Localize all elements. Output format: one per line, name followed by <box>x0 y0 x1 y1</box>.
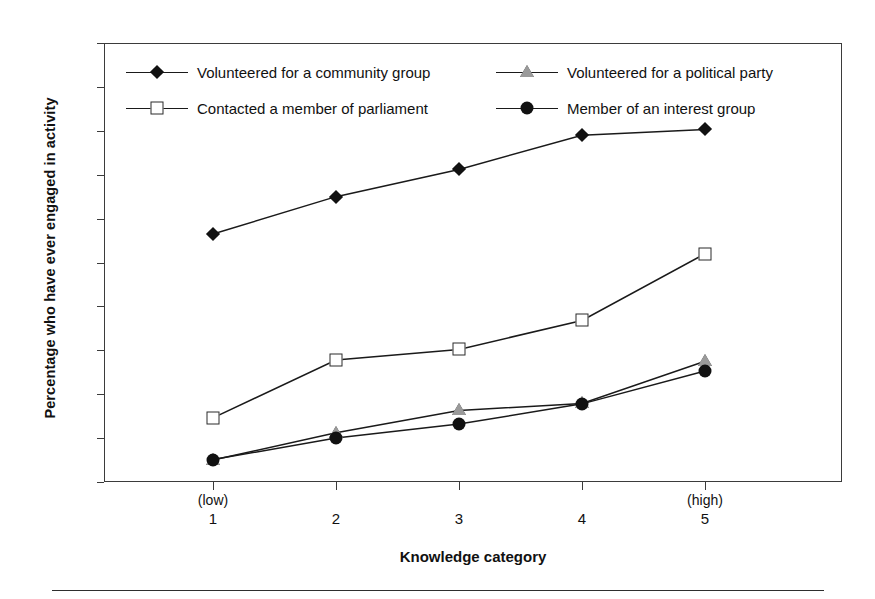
series-line <box>213 254 705 418</box>
marker-square-icon <box>699 247 712 260</box>
marker-circle-icon <box>453 418 466 431</box>
marker-circle-icon <box>576 397 589 410</box>
y-axis-tick-mark <box>97 131 104 132</box>
marker-circle-icon <box>521 102 534 115</box>
y-axis-title: Percentage who have ever engaged in acti… <box>42 28 58 488</box>
legend-key <box>126 62 188 82</box>
x-axis-tick-label: 5 <box>645 508 765 530</box>
x-axis-tick-qualifier <box>276 492 396 508</box>
y-axis-tick-mark <box>97 394 104 395</box>
y-axis-tick-mark <box>97 87 104 88</box>
marker-square-icon <box>207 411 220 424</box>
x-axis-tick-qualifier: (high) <box>645 492 765 508</box>
legend-entry[interactable]: Volunteered for a community group <box>126 62 496 82</box>
marker-diamond-icon <box>150 65 164 79</box>
x-axis-tick-mark <box>336 482 337 490</box>
x-axis-tick-qualifier <box>522 492 642 508</box>
y-axis-tick-mark <box>97 438 104 439</box>
y-axis-tick-mark <box>97 350 104 351</box>
x-axis-tick-label: 3 <box>399 508 519 530</box>
marker-square-icon <box>151 102 164 115</box>
footer-divider <box>52 590 824 591</box>
legend-entry[interactable]: Member of an interest group <box>496 98 826 118</box>
legend-key <box>496 98 558 118</box>
y-axis-tick-mark <box>97 306 104 307</box>
y-axis-tick-mark <box>97 175 104 176</box>
x-axis-tick-qualifier <box>399 492 519 508</box>
legend-label: Member of an interest group <box>567 100 755 117</box>
x-axis-tick-mark <box>582 482 583 490</box>
legend-entry[interactable]: Volunteered for a political party <box>496 62 826 82</box>
x-axis-tick-label-group: (high)5 <box>645 492 765 530</box>
chart-legend: Volunteered for a community groupVolunte… <box>126 54 826 126</box>
x-axis-tick-mark <box>459 482 460 490</box>
legend-label: Contacted a member of parliament <box>197 100 428 117</box>
x-axis-tick-label-group: 2 <box>276 492 396 530</box>
x-axis-tick-label: 2 <box>276 508 396 530</box>
marker-circle-icon <box>699 364 712 377</box>
legend-label: Volunteered for a community group <box>197 64 430 81</box>
x-axis-tick-mark <box>705 482 706 490</box>
marker-square-icon <box>576 314 589 327</box>
marker-circle-icon <box>330 432 343 445</box>
y-axis-tick-mark <box>97 219 104 220</box>
legend-key <box>126 98 188 118</box>
marker-circle-icon <box>207 453 220 466</box>
x-axis-tick-label-group: (low)1 <box>153 492 273 530</box>
marker-triangle-icon <box>520 65 534 77</box>
legend-key <box>496 62 558 82</box>
marker-square-icon <box>330 353 343 366</box>
x-axis-tick-label: 1 <box>153 508 273 530</box>
x-axis-tick-qualifier: (low) <box>153 492 273 508</box>
marker-triangle-icon <box>452 403 466 415</box>
figure-container: Percentage who have ever engaged in acti… <box>0 0 875 599</box>
x-axis-tick-mark <box>213 482 214 490</box>
y-axis-tick-mark <box>97 482 104 483</box>
marker-square-icon <box>453 343 466 356</box>
legend-entry[interactable]: Contacted a member of parliament <box>126 98 496 118</box>
x-axis-tick-label-group: 4 <box>522 492 642 530</box>
y-axis-tick-mark <box>97 263 104 264</box>
series-line <box>213 129 705 233</box>
x-axis-title: Knowledge category <box>104 548 842 565</box>
x-axis-tick-label: 4 <box>522 508 642 530</box>
y-axis-tick-mark <box>97 43 104 44</box>
x-axis-tick-label-group: 3 <box>399 492 519 530</box>
legend-label: Volunteered for a political party <box>567 64 773 81</box>
